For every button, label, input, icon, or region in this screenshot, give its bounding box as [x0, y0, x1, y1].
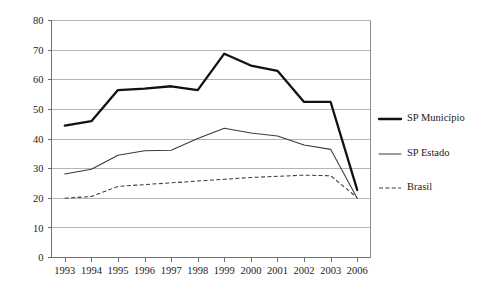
x-axis-label-2000: 2000 — [240, 265, 261, 276]
x-axis-label-1999: 1999 — [214, 265, 235, 276]
y-axis-label-30: 30 — [33, 163, 44, 174]
x-axis-label-1993: 1993 — [54, 265, 75, 276]
x-axis-label-2002: 2002 — [294, 265, 315, 276]
series-line-2 — [65, 175, 357, 198]
series-line-0 — [65, 54, 357, 190]
x-axis-label-2001: 2001 — [267, 265, 288, 276]
legend-label-1: SP Estado — [407, 147, 450, 158]
tick-marks-group — [48, 21, 358, 262]
x-axis-label-1997: 1997 — [161, 265, 182, 276]
x-axis-tick-labels: 1993199419951996199719981999200020012002… — [54, 265, 367, 276]
data-series-layer — [65, 54, 357, 199]
chart-canvas: 01020304050607080 1993199419951996199719… — [0, 0, 483, 292]
x-axis-label-1994: 1994 — [81, 265, 103, 276]
y-axis-label-50: 50 — [33, 104, 44, 115]
x-axis-label-1995: 1995 — [107, 265, 128, 276]
y-axis-label-60: 60 — [33, 74, 44, 85]
gridlines-group — [52, 21, 371, 228]
chart-legend: SP MunicípioSP EstadoBrasil — [379, 112, 465, 192]
y-axis-label-80: 80 — [33, 15, 44, 26]
y-axis-label-10: 10 — [33, 223, 44, 234]
y-axis-tick-labels: 01020304050607080 — [33, 15, 44, 263]
x-axis-label-2003: 2003 — [320, 265, 341, 276]
y-axis-label-20: 20 — [33, 193, 44, 204]
x-axis-label-1996: 1996 — [134, 265, 155, 276]
x-axis-label-1998: 1998 — [187, 265, 208, 276]
legend-label-0: SP Município — [407, 112, 465, 123]
legend-label-2: Brasil — [407, 181, 432, 192]
y-axis-label-0: 0 — [38, 252, 43, 263]
y-axis-label-40: 40 — [33, 134, 44, 145]
x-axis-label-2006: 2006 — [347, 265, 368, 276]
y-axis-label-70: 70 — [33, 45, 44, 56]
line-chart: 01020304050607080 1993199419951996199719… — [0, 0, 483, 292]
